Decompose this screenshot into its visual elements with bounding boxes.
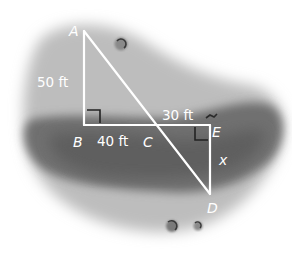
rock-bottom-right: [194, 222, 203, 231]
label-point-a: A: [68, 23, 79, 39]
label-point-b: B: [73, 134, 83, 150]
label-point-e: E: [212, 124, 221, 140]
pond-triangle-diagram: A B C E D 50 ft 40 ft 30 ft x: [0, 0, 292, 261]
label-ed-unknown: x: [218, 152, 228, 168]
label-point-d: D: [207, 200, 218, 216]
rock-bottom-left: [166, 220, 178, 232]
diagram-canvas: A B C E D 50 ft 40 ft 30 ft x: [0, 0, 292, 261]
label-ce-length: 30 ft: [162, 107, 193, 123]
label-bc-length: 40 ft: [97, 133, 128, 149]
rock-top: [115, 38, 128, 51]
label-ab-length: 50 ft: [37, 74, 68, 90]
label-point-c: C: [143, 134, 153, 150]
